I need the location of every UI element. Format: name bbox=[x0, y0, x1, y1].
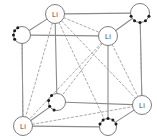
dashed-bond bbox=[22, 44, 23, 117]
cell-edge bbox=[65, 102, 132, 104]
atom-rim-dot bbox=[16, 26, 19, 29]
atom-label: Li bbox=[20, 122, 26, 131]
atom-rim-dot bbox=[47, 99, 50, 102]
cell-edge bbox=[31, 107, 50, 121]
lattice-svg: LiLiLiLi bbox=[0, 0, 157, 140]
atom-li-lower-right: Li bbox=[133, 96, 152, 115]
dashed-bond bbox=[30, 43, 102, 119]
atom-rim-dot bbox=[133, 19, 136, 22]
dashed-bond bbox=[59, 23, 104, 120]
atom-label: Li bbox=[105, 32, 111, 41]
cell-edge bbox=[29, 19, 47, 30]
atom-rim-dot bbox=[13, 38, 16, 41]
atom-rim-dot bbox=[50, 94, 53, 97]
atom-rim-dot bbox=[99, 123, 102, 126]
atom-rim-dot bbox=[48, 105, 51, 108]
atom-label: Li bbox=[139, 101, 145, 110]
atom-rim-dot bbox=[12, 34, 15, 37]
atom-li-bottom-left: Li bbox=[14, 117, 33, 136]
atom-rim-dot bbox=[139, 21, 142, 24]
atom-rim-dot bbox=[13, 29, 16, 32]
atom-dotted-top-right bbox=[130, 4, 151, 25]
cell-edge bbox=[55, 24, 57, 94]
dashed-bond bbox=[64, 18, 99, 33]
dashed-bond bbox=[62, 44, 102, 96]
atom-rim-dot bbox=[53, 108, 56, 111]
crystal-structure-figure: LiLiLiLi bbox=[0, 0, 157, 140]
atom-rim-dot bbox=[130, 15, 133, 18]
atom-rim-dot bbox=[114, 123, 117, 126]
cell-edge bbox=[33, 126, 100, 127]
atom-rim-dot bbox=[102, 119, 105, 122]
dashed-bond bbox=[140, 23, 142, 96]
dashed-bond bbox=[112, 45, 138, 97]
dashed-bond bbox=[62, 21, 136, 98]
dashed-bonds-layer bbox=[22, 18, 142, 125]
atom-circle bbox=[131, 4, 150, 23]
atom-dotted-upper-left bbox=[12, 26, 31, 43]
cell-edge bbox=[115, 110, 134, 122]
atom-rim-dot bbox=[147, 15, 150, 18]
atom-li-top-left: Li bbox=[46, 5, 65, 24]
atom-li-upper-right: Li bbox=[99, 27, 118, 46]
cell-edge bbox=[116, 19, 133, 31]
atom-label: Li bbox=[52, 10, 58, 19]
atom-dotted-center-lower bbox=[47, 94, 65, 112]
atom-circle bbox=[14, 27, 31, 44]
atom-rim-dot bbox=[144, 19, 147, 22]
atom-rim-dot bbox=[111, 119, 114, 122]
atom-dotted-bottom-right bbox=[99, 117, 118, 136]
cell-edge bbox=[65, 13, 131, 14]
atom-rim-dot bbox=[107, 117, 110, 120]
